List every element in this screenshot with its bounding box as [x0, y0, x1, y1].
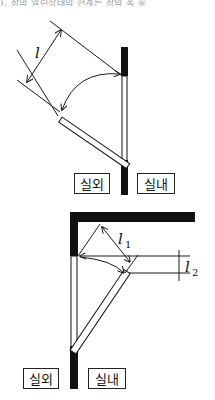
- inside-label-bottom: 실내: [88, 368, 126, 389]
- opened-sash: [70, 270, 130, 354]
- swing-arc: [80, 257, 124, 273]
- dimension-l-arrow: [27, 30, 61, 82]
- dimension-l2-label: l: [185, 258, 190, 276]
- dimension-l1-subscript: 1: [125, 239, 131, 250]
- wall-vertical-upper: [70, 212, 78, 256]
- top-diagram: l: [17, 21, 130, 195]
- opened-sash: [59, 117, 130, 168]
- dimension-l-label: l: [35, 44, 40, 62]
- casement-window-diagrams: l l 1 l 2: [0, 0, 215, 400]
- dimension-l2-subscript: 2: [192, 267, 198, 278]
- outside-label-bottom: 실외: [23, 368, 59, 389]
- dimension-l1-label: l: [118, 230, 123, 248]
- bottom-diagram: l 1 l 2: [70, 212, 198, 389]
- wall-top-horizontal: [70, 212, 195, 222]
- outside-label-top: 실외: [74, 173, 110, 194]
- window-frame: [122, 76, 127, 168]
- inside-label-top: 실내: [137, 173, 175, 194]
- reference-line: [50, 21, 121, 75]
- window-frame: [71, 256, 77, 352]
- wall-upper-segment: [121, 47, 128, 76]
- reference-line: [78, 224, 100, 256]
- swing-arc: [62, 74, 120, 110]
